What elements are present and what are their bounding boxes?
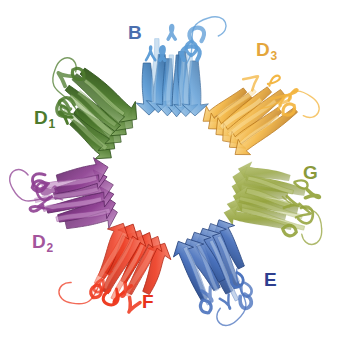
protein-structure-rendering [0, 0, 343, 352]
subunit-label-subscript: 1 [48, 117, 55, 131]
subunit-label-B: B [128, 23, 142, 42]
subunit-label-subscript: 3 [270, 49, 277, 63]
loop [160, 47, 165, 61]
subunit-label-D3: D3 [256, 40, 277, 59]
subunit-label-D2: D2 [32, 232, 53, 251]
subunit-label-G: G [303, 163, 318, 182]
subunit-label-F: F [142, 292, 154, 311]
subunit-label-D1: D1 [34, 108, 55, 127]
protein-ring-figure: B D3 G E F D2 D1 [0, 0, 343, 352]
subunit-label-subscript: 2 [46, 241, 53, 255]
figure-background [0, 0, 343, 352]
subunit-label-E: E [264, 270, 277, 289]
